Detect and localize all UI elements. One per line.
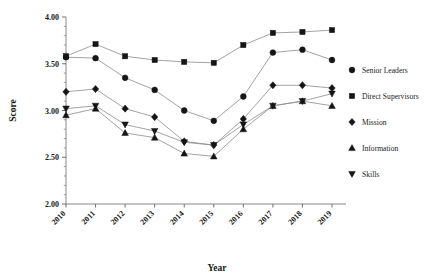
y-tick-label: 2.00 <box>45 200 59 209</box>
data-point-marker <box>349 67 355 73</box>
data-point-marker <box>63 106 70 112</box>
data-point-marker <box>300 29 305 34</box>
series-line <box>66 94 332 145</box>
x-tick-label: 2015 <box>198 209 216 227</box>
data-point-marker <box>349 145 356 151</box>
data-point-marker <box>92 85 98 92</box>
data-point-marker <box>270 50 276 56</box>
data-point-marker <box>329 27 334 32</box>
data-point-marker <box>151 128 158 134</box>
data-point-marker <box>122 75 128 81</box>
data-point-marker <box>122 130 129 136</box>
data-point-marker <box>241 42 246 47</box>
y-axis-title: Score <box>8 99 18 122</box>
x-tick-label: 2017 <box>257 209 275 227</box>
legend-label: Senior Leaders <box>362 66 408 75</box>
data-point-marker <box>152 57 157 62</box>
chart-figure: 2.002.503.003.504.0020102011201220132014… <box>0 0 435 279</box>
line-chart: 2.002.503.003.504.0020102011201220132014… <box>0 0 435 279</box>
series-direct-supervisors <box>63 27 334 65</box>
data-point-marker <box>300 47 306 53</box>
x-tick-label: 2011 <box>80 209 97 226</box>
series-line <box>66 85 332 145</box>
data-point-marker <box>329 84 335 91</box>
y-tick-label: 3.00 <box>45 107 59 116</box>
data-point-marker <box>93 42 98 47</box>
data-point-marker <box>349 171 356 177</box>
data-point-marker <box>329 57 335 63</box>
legend-label: Skills <box>362 170 379 179</box>
data-point-marker <box>122 105 128 112</box>
series-line <box>66 30 332 63</box>
x-tick-label: 2016 <box>227 209 245 227</box>
legend-label: Direct Supervisors <box>362 92 419 101</box>
data-point-marker <box>63 54 68 59</box>
x-tick-label: 2010 <box>50 209 68 227</box>
x-tick-label: 2018 <box>286 209 304 227</box>
x-tick-label: 2014 <box>168 209 186 227</box>
data-point-marker <box>182 59 187 64</box>
x-tick-label: 2012 <box>109 209 127 227</box>
data-point-marker <box>181 150 188 156</box>
legend-label: Information <box>362 144 398 153</box>
data-point-marker <box>211 118 217 124</box>
x-tick-label: 2013 <box>138 209 156 227</box>
data-point-marker <box>349 93 354 98</box>
data-point-marker <box>152 87 158 93</box>
data-point-marker <box>270 30 275 35</box>
data-point-marker <box>63 88 69 95</box>
data-point-marker <box>240 94 246 100</box>
data-point-marker <box>181 108 187 114</box>
series-line <box>66 101 332 156</box>
data-point-marker <box>211 60 216 65</box>
y-tick-label: 3.50 <box>45 60 59 69</box>
data-point-marker <box>299 82 305 89</box>
legend-label: Mission <box>362 118 387 127</box>
data-point-marker <box>151 113 157 120</box>
data-point-marker <box>93 55 99 61</box>
series-skills <box>63 91 336 148</box>
chart-legend: Senior LeadersDirect SupervisorsMissionI… <box>349 66 419 179</box>
x-tick-label: 2019 <box>316 209 334 227</box>
series-information <box>63 98 336 159</box>
y-tick-label: 2.50 <box>45 153 59 162</box>
data-point-marker <box>349 118 355 125</box>
x-axis-title: Year <box>208 263 228 273</box>
data-point-marker <box>123 54 128 59</box>
y-tick-label: 4.00 <box>45 13 59 22</box>
